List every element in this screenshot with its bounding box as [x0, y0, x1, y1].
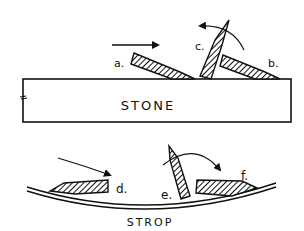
blade-e-label: e. [161, 188, 172, 202]
blade-d-label: d. [116, 182, 127, 196]
blade-b-label: b. [268, 57, 278, 70]
sharpening-diagram: STONE a. c. b. STROP d. e. f. [0, 0, 304, 231]
strop-label: STROP [127, 216, 174, 229]
blade-d: d. [50, 180, 127, 196]
blade-b: b. [220, 55, 280, 79]
blade-a-label: a. [114, 57, 124, 70]
blade-a: a. [114, 53, 195, 79]
stone: STONE [20, 79, 291, 122]
stone-label: STONE [121, 98, 175, 113]
blade-f-label: f. [241, 169, 248, 183]
blade-c-label: c. [195, 40, 205, 53]
arrow-down-right-icon [58, 158, 110, 175]
